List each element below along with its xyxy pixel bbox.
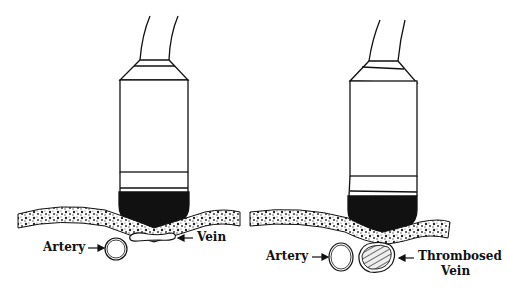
- right-artery-vessel: [329, 243, 353, 271]
- left-vein-label: Vein: [197, 231, 226, 244]
- right-artery-arrow: [312, 254, 328, 260]
- left-artery-arrow: [88, 245, 104, 251]
- left-artery-vessel: [105, 238, 127, 260]
- right-vein-label-line1: Thrombosed: [418, 250, 502, 263]
- right-vein-label-line2: Vein: [441, 265, 470, 278]
- right-artery-label: Artery: [266, 250, 308, 263]
- left-artery-label: Artery: [43, 241, 85, 254]
- left-vein-arrow: [178, 235, 193, 241]
- left-compressed-vein: [130, 233, 176, 241]
- right-vein-arrow: [399, 255, 414, 261]
- left-ultrasound-probe: [119, 16, 189, 228]
- right-ultrasound-probe: [348, 20, 417, 232]
